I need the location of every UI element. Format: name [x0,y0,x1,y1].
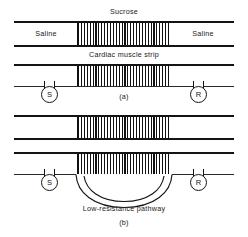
panel-a-stimulating-electrode[interactable]: S [41,86,58,103]
electrode-label-r: R [190,86,207,103]
panel-b-caption: (b) [119,219,129,226]
panel-a-sucrose-label: Sucrose [110,8,138,15]
panel-a-saline-label-left: Saline [35,30,56,37]
pathway-outer-curve [76,175,172,208]
panel-b-strip-gap-hatching [77,154,169,174]
panel-b-stimulating-electrode[interactable]: S [41,174,58,191]
figure-canvas: Sucrose Saline Saline Cardiac muscle str… [0,0,248,237]
panel-b-sucrose-gap-hatching [77,117,169,138]
panel-a-saline-label-right: Saline [192,30,213,37]
panel-a-recording-electrode[interactable]: R [190,86,207,103]
panel-a-sucrose-gap-hatching [77,23,169,45]
panel-b-chamber-bottom-wall [14,138,234,140]
electrode-label-s: S [41,86,58,103]
panel-b-low-resistance-pathway-label: Low-resistance pathway [83,205,166,212]
pathway-inner-curve [84,176,164,202]
panel-a-strip-gap-hatching [77,66,169,86]
panel-a-chamber-bottom-wall [14,45,234,47]
panel-b-recording-electrode[interactable]: R [190,174,207,191]
panel-a-caption: (a) [119,93,129,100]
electrode-label-s: S [41,174,58,191]
electrode-label-r: R [190,174,207,191]
panel-a-cardiac-muscle-strip-label: Cardiac muscle strip [89,51,159,58]
pathway-fill-mask [76,175,172,206]
